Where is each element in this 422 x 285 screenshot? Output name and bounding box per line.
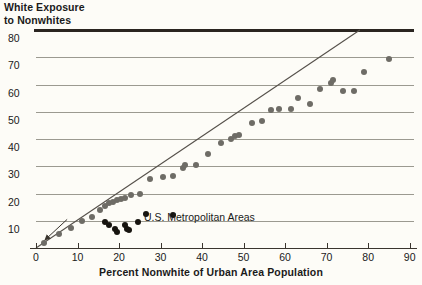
plot-area: 1020304050607080 U.S. Metropolitan Areas… (0, 0, 422, 285)
data-point (147, 176, 153, 182)
y-tick-label-40: 40 (8, 141, 32, 153)
y-tick-label-50: 50 (8, 114, 32, 126)
x-tick-label-40: 40 (196, 251, 208, 263)
y-tick-label-30: 30 (8, 168, 32, 180)
y-tick-label-10: 10 (8, 223, 32, 235)
data-point (330, 77, 336, 83)
y-tick-label-60: 60 (8, 87, 32, 99)
data-point (276, 106, 282, 112)
data-point (182, 162, 188, 168)
data-point (106, 222, 112, 228)
data-point (89, 214, 95, 220)
x-tick-label-20: 20 (113, 251, 125, 263)
data-point (295, 95, 301, 101)
data-point (236, 132, 242, 138)
data-point (351, 88, 357, 94)
gridline-60 (36, 85, 414, 86)
data-point (170, 173, 176, 179)
x-tick-label-90: 90 (404, 251, 416, 263)
data-point (128, 192, 134, 198)
x-tick-20 (119, 243, 120, 249)
data-point (126, 227, 132, 233)
data-point (56, 231, 62, 237)
data-point (68, 225, 74, 231)
data-point (317, 86, 323, 92)
gridline-70 (36, 57, 414, 58)
x-tick-60 (285, 243, 286, 249)
y-tick-label-70: 70 (8, 59, 32, 71)
x-tick-label-0: 0 (33, 251, 39, 263)
gridline-80 (34, 29, 414, 32)
data-point (137, 191, 143, 197)
x-tick-label-50: 50 (238, 251, 250, 263)
data-point (249, 120, 255, 126)
data-point (114, 229, 120, 235)
data-point (135, 219, 141, 225)
x-axis-line (30, 248, 417, 249)
x-tick-label-30: 30 (155, 251, 167, 263)
scatter-chart: White Exposure to Nonwhites 102030405060… (0, 0, 422, 285)
x-tick-30 (161, 243, 162, 249)
gridline-50 (36, 112, 414, 113)
data-point (268, 107, 274, 113)
gridline-40 (36, 139, 414, 140)
data-point (79, 218, 85, 224)
data-point (205, 151, 211, 157)
x-tick-80 (368, 243, 369, 249)
equality-reference-line (0, 0, 422, 285)
x-tick-40 (202, 243, 203, 249)
x-tick-70 (327, 243, 328, 249)
annotation-arrow-icon (0, 0, 422, 285)
x-tick-label-70: 70 (321, 251, 333, 263)
x-tick-10 (78, 243, 79, 249)
data-point (41, 240, 47, 246)
data-point (160, 174, 166, 180)
y-tick-label-20: 20 (8, 196, 32, 208)
y-tick-label-80: 80 (8, 32, 32, 44)
x-tick-label-60: 60 (279, 251, 291, 263)
x-tick-50 (244, 243, 245, 249)
annotation-label: U.S. Metropolitan Areas (144, 211, 255, 223)
data-point (288, 106, 294, 112)
x-axis-title: Percent Nonwhite of Urban Area Populatio… (0, 266, 422, 278)
data-point (122, 195, 128, 201)
gridline-20 (36, 194, 414, 195)
gridline-30 (36, 166, 414, 167)
data-point (361, 69, 367, 75)
x-tick-label-80: 80 (362, 251, 374, 263)
data-point (218, 140, 224, 146)
data-point (193, 162, 199, 168)
data-point (386, 56, 392, 62)
x-tick-0 (36, 243, 37, 249)
x-tick-90 (410, 243, 411, 249)
data-point (307, 101, 313, 107)
x-tick-label-10: 10 (72, 251, 84, 263)
data-point (259, 118, 265, 124)
data-point (340, 88, 346, 94)
